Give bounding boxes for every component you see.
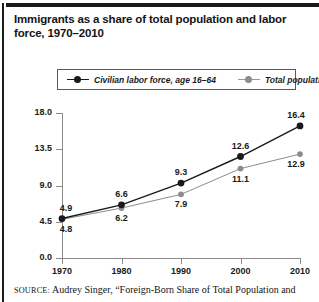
chart-title: Immigrants as a share of total populatio… bbox=[14, 12, 309, 40]
data-point-label: 4.8 bbox=[60, 224, 73, 234]
data-point-label: 16.4 bbox=[287, 110, 305, 120]
y-tick-label: 4.5 bbox=[18, 216, 52, 226]
x-tick bbox=[122, 259, 123, 264]
x-tick-label: 1990 bbox=[171, 266, 191, 276]
data-point-label: 7.9 bbox=[175, 199, 188, 209]
x-tick-label: 2010 bbox=[290, 266, 310, 276]
source-prefix: SOURCE: bbox=[14, 286, 50, 295]
source-text: Audrey Singer, “Foreign-Born Share of To… bbox=[50, 284, 296, 295]
data-point-label: 6.6 bbox=[115, 189, 128, 199]
y-tick-label: 0.0 bbox=[18, 252, 52, 262]
data-point-label: 12.9 bbox=[287, 159, 305, 169]
legend-entry-total-population: Total population bbox=[238, 75, 319, 85]
x-tick bbox=[62, 259, 63, 264]
data-point-marker bbox=[237, 153, 244, 160]
x-tick-label: 1980 bbox=[111, 266, 131, 276]
chart-legend: Civilian labor force, age 16–64 Total po… bbox=[57, 69, 296, 90]
data-point-marker bbox=[178, 191, 184, 197]
data-point-label: 6.2 bbox=[115, 213, 128, 223]
data-point-label: 12.6 bbox=[232, 141, 250, 151]
data-point-marker bbox=[297, 122, 304, 129]
legend-marker-total-population-icon bbox=[238, 75, 260, 84]
legend-entry-labor-force: Civilian labor force, age 16–64 bbox=[67, 75, 216, 85]
data-point-label: 9.3 bbox=[175, 167, 188, 177]
y-tick-label: 13.5 bbox=[18, 143, 52, 153]
legend-label-total-population: Total population bbox=[265, 75, 319, 85]
source-note: SOURCE: Audrey Singer, “Foreign-Born Sha… bbox=[14, 283, 314, 297]
data-point-marker bbox=[59, 215, 66, 222]
left-margin-rule bbox=[2, 3, 4, 302]
top-rule bbox=[6, 3, 319, 7]
data-point-marker bbox=[297, 151, 303, 157]
data-point-marker bbox=[178, 180, 185, 187]
data-point-marker bbox=[238, 166, 244, 172]
legend-marker-labor-force-icon bbox=[67, 75, 89, 84]
x-tick-label: 2000 bbox=[230, 266, 250, 276]
y-tick-label: 18.0 bbox=[18, 107, 52, 117]
x-tick bbox=[241, 259, 242, 264]
x-tick-label: 1970 bbox=[52, 266, 72, 276]
data-point-label: 11.1 bbox=[232, 174, 249, 184]
data-point-label: 4.9 bbox=[60, 203, 73, 213]
data-point-marker bbox=[118, 201, 125, 208]
x-tick bbox=[300, 259, 301, 264]
series-lines bbox=[62, 113, 300, 258]
y-tick-label: 9.0 bbox=[18, 180, 52, 190]
x-tick bbox=[181, 259, 182, 264]
legend-label-labor-force: Civilian labor force, age 16–64 bbox=[94, 75, 216, 85]
plot-area bbox=[62, 113, 300, 258]
series-line bbox=[62, 154, 300, 219]
chart-figure: Immigrants as a share of total populatio… bbox=[0, 0, 319, 302]
